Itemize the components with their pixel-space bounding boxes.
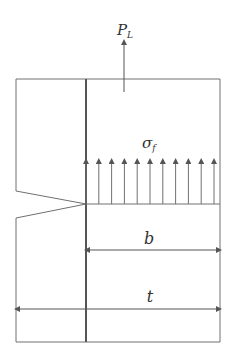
stress-label: σf	[142, 134, 157, 153]
specimen-outline	[16, 79, 220, 342]
stress-arrows	[86, 161, 214, 204]
load-label: PL	[116, 21, 133, 40]
diagram-canvas: PL σf b t	[0, 0, 233, 359]
dimension-t-label: t	[147, 287, 154, 306]
notch	[16, 191, 86, 218]
dimension-b-label: b	[144, 229, 154, 248]
